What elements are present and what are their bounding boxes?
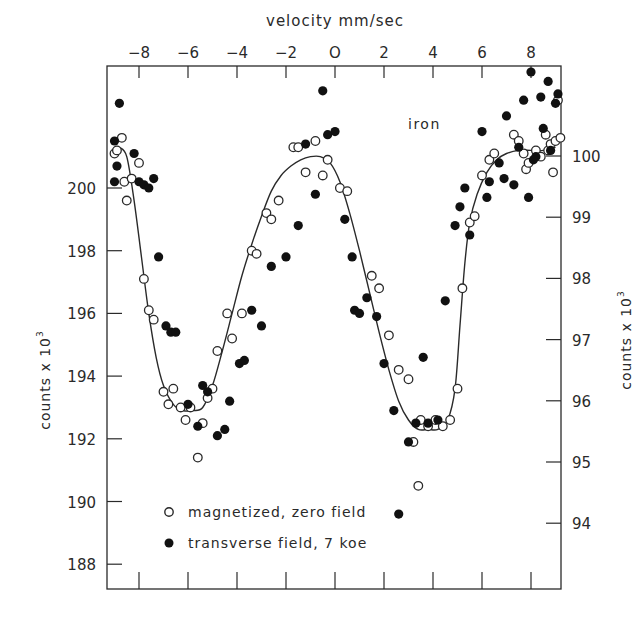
filled-circle-point bbox=[213, 431, 222, 440]
y-axis-right-label-text: counts x 103 bbox=[616, 290, 634, 390]
y-right-tick-label: 99 bbox=[572, 209, 591, 227]
filled-circle-point bbox=[220, 425, 229, 434]
filled-circle-point bbox=[482, 193, 491, 202]
filled-circle-point bbox=[536, 92, 545, 101]
open-circle-point bbox=[367, 271, 376, 280]
legend-open-circle-icon bbox=[165, 508, 173, 516]
filled-circle-point bbox=[441, 296, 450, 305]
filled-circle-point bbox=[509, 180, 518, 189]
x-tick-label: −2 bbox=[275, 44, 297, 62]
open-circle-point bbox=[113, 146, 122, 155]
filled-circle-point bbox=[110, 177, 119, 186]
filled-circle-point bbox=[115, 99, 124, 108]
legend-filled-circle-icon bbox=[165, 539, 174, 548]
filled-circle-point bbox=[553, 89, 562, 98]
open-circle-point bbox=[228, 334, 237, 343]
legend: magnetized, zero field transverse field,… bbox=[165, 504, 368, 551]
y-left-tick-label: 188 bbox=[67, 556, 96, 574]
filled-circle-point bbox=[450, 221, 459, 230]
open-circle-point bbox=[446, 416, 455, 425]
x-tick-label: 8 bbox=[526, 44, 536, 62]
open-circle-point bbox=[478, 171, 487, 180]
open-circle-point bbox=[194, 453, 203, 462]
y-left-tick-label: 190 bbox=[67, 494, 96, 512]
filled-circle-point bbox=[330, 127, 339, 136]
x-tick-label: O bbox=[329, 44, 341, 62]
filled-circle-point bbox=[294, 221, 303, 230]
filled-circle-point bbox=[394, 509, 403, 518]
x-tick-label: −8 bbox=[128, 44, 150, 62]
filled-circle-point bbox=[225, 397, 234, 406]
open-circle-point bbox=[458, 284, 467, 293]
filled-circle-point bbox=[193, 422, 202, 431]
filled-circle-point bbox=[519, 96, 528, 105]
open-circle-point bbox=[414, 482, 423, 491]
legend-label-transverse: transverse field, 7 koe bbox=[188, 535, 367, 551]
filled-circle-point bbox=[240, 356, 249, 365]
open-circle-point bbox=[318, 171, 327, 180]
open-circle-point bbox=[135, 159, 144, 168]
open-circle-point bbox=[556, 134, 565, 143]
y-left-tick-label: 200 bbox=[67, 180, 96, 198]
filled-circle-point bbox=[514, 143, 523, 152]
filled-circle-point bbox=[477, 127, 486, 136]
open-circle-point bbox=[394, 366, 403, 375]
filled-circle-point bbox=[411, 419, 420, 428]
filled-circle-point bbox=[539, 124, 548, 133]
filled-circle-point bbox=[257, 321, 266, 330]
open-circle-point bbox=[301, 168, 310, 177]
filled-circle-point bbox=[112, 161, 121, 170]
open-circle-point bbox=[169, 384, 178, 393]
open-circle-point bbox=[274, 196, 283, 205]
filled-circle-point bbox=[419, 353, 428, 362]
annotation-iron: iron bbox=[408, 116, 441, 132]
y-axis-left-label: counts x 103 bbox=[35, 330, 53, 430]
legend-label-magnetized: magnetized, zero field bbox=[188, 504, 366, 520]
filled-circle-point bbox=[171, 328, 180, 337]
mossbauer-chart: −8−6−4−2O2468 188190192194196198200 9495… bbox=[0, 0, 643, 625]
filled-circle-point bbox=[455, 202, 464, 211]
open-circle-point bbox=[252, 250, 261, 259]
filled-circle-point bbox=[485, 177, 494, 186]
y-left-tick-label: 196 bbox=[67, 305, 96, 323]
filled-circle-point bbox=[318, 86, 327, 95]
filled-circle-point bbox=[247, 306, 256, 315]
y-axis-left-ticks: 188190192194196198200 bbox=[67, 180, 122, 574]
filled-circle-point bbox=[544, 77, 553, 86]
filled-circle-point bbox=[149, 174, 158, 183]
filled-circle-point bbox=[355, 309, 364, 318]
filled-circle-point bbox=[424, 419, 433, 428]
y-right-tick-label: 96 bbox=[572, 393, 591, 411]
filled-circle-point bbox=[379, 359, 388, 368]
filled-circle-point bbox=[529, 155, 538, 164]
filled-circle-point bbox=[340, 215, 349, 224]
filled-circle-point bbox=[301, 140, 310, 149]
open-circle-point bbox=[145, 306, 154, 315]
x-tick-label: 2 bbox=[379, 44, 389, 62]
y-right-tick-label: 95 bbox=[572, 454, 591, 472]
y-right-tick-label: 94 bbox=[572, 515, 591, 533]
x-tick-label: −6 bbox=[177, 44, 199, 62]
x-tick-label: 4 bbox=[428, 44, 438, 62]
y-left-tick-label: 198 bbox=[67, 243, 96, 261]
open-circle-point bbox=[323, 155, 332, 164]
open-circle-point bbox=[213, 347, 222, 356]
filled-circle-point bbox=[144, 183, 153, 192]
open-circle-point bbox=[404, 375, 413, 384]
filled-circle-point bbox=[495, 158, 504, 167]
open-circle-point bbox=[159, 387, 168, 396]
open-circle-point bbox=[140, 275, 149, 284]
x-tick-label: −4 bbox=[226, 44, 248, 62]
filled-circle-point bbox=[389, 406, 398, 415]
filled-circle-point bbox=[502, 111, 511, 120]
filled-circle-point bbox=[362, 293, 371, 302]
y-axis-right-label: counts x 103 bbox=[616, 290, 634, 390]
open-circle-point bbox=[549, 168, 558, 177]
filled-circle-point bbox=[311, 190, 320, 199]
open-circle-point bbox=[238, 309, 247, 318]
x-axis-label: velocity mm/sec bbox=[266, 12, 404, 30]
y-right-tick-label: 97 bbox=[572, 332, 591, 350]
filled-circle-point bbox=[465, 230, 474, 239]
open-circle-point bbox=[343, 187, 352, 196]
filled-circle-point bbox=[267, 262, 276, 271]
